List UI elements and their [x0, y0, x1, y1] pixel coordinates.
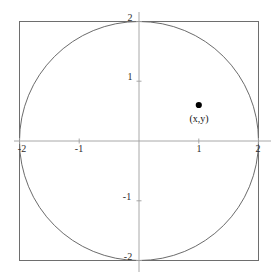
- y-tick-label-neg1: -1: [123, 192, 131, 202]
- x-tick-label-neg2: -2: [18, 144, 26, 154]
- x-tick-label-pos2: 2: [256, 144, 261, 154]
- y-tick-label-pos1: 1: [128, 72, 133, 82]
- x-tick-label-pos1: 1: [197, 144, 202, 154]
- y-tick-label-neg2: -2: [124, 252, 132, 262]
- y-tick-label-pos2: 2: [128, 13, 133, 23]
- plot-figure: -2 -1 1 2 2 1 -1 -2 (x,y): [0, 0, 277, 278]
- x-tick-label-neg1: -1: [75, 144, 83, 154]
- xy-point-marker: [196, 102, 202, 108]
- circle-plot-canvas: [0, 0, 277, 278]
- xy-point-label: (x,y): [189, 114, 208, 124]
